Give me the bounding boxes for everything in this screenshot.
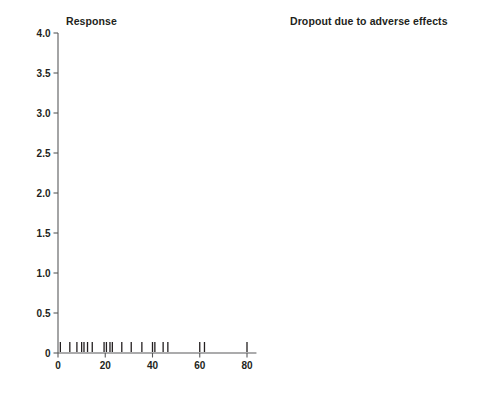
rug-plot: [60, 342, 247, 352]
panel-response: Response 00.51.01.52.02.53.03.54.0020406…: [0, 0, 262, 400]
plot-area-response: 00.51.01.52.02.53.03.54.0020406080: [0, 0, 262, 400]
dose-response-figure: Response 00.51.01.52.02.53.03.54.0020406…: [0, 0, 503, 400]
y-axis-tick-label: 0.5: [37, 308, 51, 319]
y-axis-tick-label: 4.0: [37, 28, 51, 39]
y-axis-tick-label: 0: [45, 348, 51, 359]
y-axis-tick-label: 1.0: [37, 268, 51, 279]
panel-dropout: Dropout due to adverse effects: [262, 0, 503, 400]
x-axis-tick-label: 20: [100, 360, 112, 371]
y-axis-tick-label: 3.5: [37, 68, 51, 79]
y-axis-tick-label: 3.0: [37, 108, 51, 119]
x-axis-tick-label: 60: [194, 360, 206, 371]
x-axis-tick-label: 80: [241, 360, 253, 371]
x-axis-tick-label: 40: [147, 360, 159, 371]
y-axis-tick-label: 2.5: [37, 148, 51, 159]
x-axis-tick-label: 0: [55, 360, 61, 371]
y-axis-tick-label: 1.5: [37, 228, 51, 239]
plot-area-dropout: [262, 0, 503, 400]
y-axis-tick-label: 2.0: [37, 188, 51, 199]
